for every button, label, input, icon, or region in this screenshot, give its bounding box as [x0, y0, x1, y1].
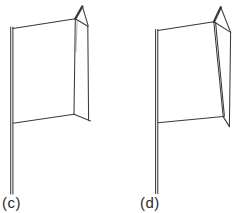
figure-d-flap-left-edge [214, 7, 221, 21]
figure-d-panel-right-inner-edge [216, 23, 225, 117]
figure-c-panel-bottom-edge [13, 114, 74, 123]
figure-d-panel-top-edge [158, 22, 214, 31]
figure-c-flap-left-edge [75, 6, 82, 18]
line-drawing-svg [0, 0, 237, 213]
figure-canvas: (c) (d) [0, 0, 237, 213]
figure-c-caption: (c) [2, 194, 21, 211]
figure-c-panel-right-inner-edge [76, 20, 77, 52]
figure-c-panel-top-edge [13, 19, 75, 29]
figure-c-fold-outer-edge [88, 26, 89, 120]
figure-d-fold-bottom-edge [223, 117, 229, 127]
figure-d-fold-outer-edge [229, 32, 230, 126]
figure-c-flap-right-edge [82, 6, 88, 25]
figure-d-drawing [156, 7, 231, 193]
figure-d-caption: (d) [140, 194, 160, 211]
figure-d-panel-bottom-edge [158, 117, 223, 123]
figure-c-drawing [11, 6, 91, 194]
figure-c-panel-right-edge [74, 19, 75, 115]
figure-d-panel-right-edge [214, 22, 223, 117]
